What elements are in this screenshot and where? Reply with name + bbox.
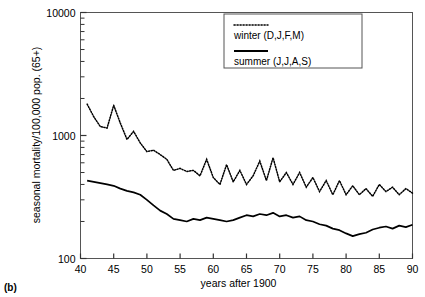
x-tick-label: 80 [340, 263, 352, 275]
y-axis-label: seasonal mortality/100,000 pop. (65+) [30, 47, 42, 224]
x-tick-label: 50 [141, 263, 153, 275]
series-line-winter [87, 104, 412, 196]
x-tick-label: 40 [75, 263, 87, 275]
panel-label: (b) [4, 282, 17, 293]
figure-panel-b: seasonal mortality/100,000 pop. (65+) 10… [0, 0, 425, 297]
y-axis-label-wrap: seasonal mortality/100,000 pop. (65+) [0, 0, 74, 14]
x-tick-label: 65 [241, 263, 253, 275]
y-tick-label: 100 [58, 253, 76, 265]
x-axis-label-wrap: years after 1900 [0, 277, 425, 289]
series-line-summer [87, 181, 412, 237]
legend-label-summer: summer (J,J,A,S) [234, 56, 311, 67]
chart-canvas: 1001000100004045505560657075808590 winte… [0, 0, 425, 297]
series-layer [87, 104, 412, 236]
x-tick-label: 55 [174, 263, 186, 275]
legend-layer: winter (D,J,F,M)summer (J,J,A,S) [224, 14, 362, 68]
x-tick-label: 75 [307, 263, 319, 275]
x-tick-label: 90 [407, 263, 419, 275]
x-tick-label: 85 [373, 263, 385, 275]
x-axis-label: years after 1900 [201, 277, 277, 289]
y-tick-label: 1000 [52, 130, 76, 142]
x-tick-label: 70 [274, 263, 286, 275]
x-tick-label: 45 [108, 263, 120, 275]
x-tick-label: 60 [207, 263, 219, 275]
legend-label-winter: winter (D,J,F,M) [233, 30, 304, 41]
